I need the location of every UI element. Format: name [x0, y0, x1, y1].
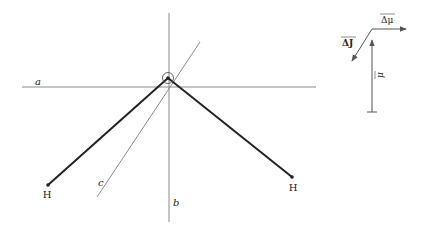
- delta-mu-label: Δμ: [381, 15, 393, 25]
- delta-j-label-group: ΔJ: [341, 37, 356, 48]
- axis-a-label: a: [35, 76, 41, 87]
- axis-c-label: c: [98, 177, 104, 188]
- mu-label-group: μ: [375, 71, 385, 79]
- bond-oh-left: [48, 78, 168, 185]
- delta-j-label: ΔJ: [342, 38, 353, 48]
- oxygen-atom-dot: [166, 76, 170, 80]
- hydrogen-right-dot: [290, 175, 294, 179]
- mu-label: μ: [375, 72, 385, 78]
- water-molecule-diagram: a b c H H μ Δμ ΔJ: [0, 0, 424, 230]
- hydrogen-left-dot: [46, 183, 50, 187]
- delta-j-arrow: [352, 29, 372, 61]
- bond-oh-right: [168, 78, 292, 177]
- hydrogen-left-label: H: [43, 189, 52, 200]
- axis-b-label: b: [173, 197, 179, 208]
- delta-mu-label-group: Δμ: [380, 14, 395, 25]
- hydrogen-right-label: H: [289, 182, 298, 193]
- axis-c-line: [97, 42, 200, 197]
